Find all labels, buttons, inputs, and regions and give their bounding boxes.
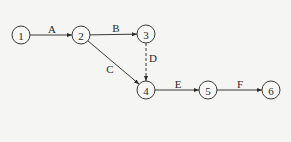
node-label: 1 bbox=[18, 30, 24, 42]
node-label: 5 bbox=[205, 85, 211, 97]
node-label: 4 bbox=[143, 85, 149, 97]
edge-label-B: B bbox=[112, 22, 119, 34]
node-5: 5 bbox=[199, 81, 217, 99]
edge-label-D: D bbox=[149, 52, 157, 64]
edge-label-E: E bbox=[175, 78, 182, 90]
edge-label-F: F bbox=[237, 78, 243, 90]
edge-2-3 bbox=[90, 34, 137, 35]
node-label: 2 bbox=[78, 30, 84, 42]
node-2: 2 bbox=[72, 26, 90, 44]
node-1: 1 bbox=[12, 26, 30, 44]
node-6: 6 bbox=[262, 81, 280, 99]
node-label: 6 bbox=[268, 85, 274, 97]
edge-label-C: C bbox=[106, 63, 113, 75]
edge-label-A: A bbox=[48, 23, 56, 35]
network-diagram: 123456 ABCDEF bbox=[0, 0, 291, 142]
node-4: 4 bbox=[137, 81, 155, 99]
diagram-svg: 123456 ABCDEF bbox=[0, 0, 291, 142]
node-3: 3 bbox=[137, 25, 155, 43]
node-label: 3 bbox=[143, 29, 149, 41]
